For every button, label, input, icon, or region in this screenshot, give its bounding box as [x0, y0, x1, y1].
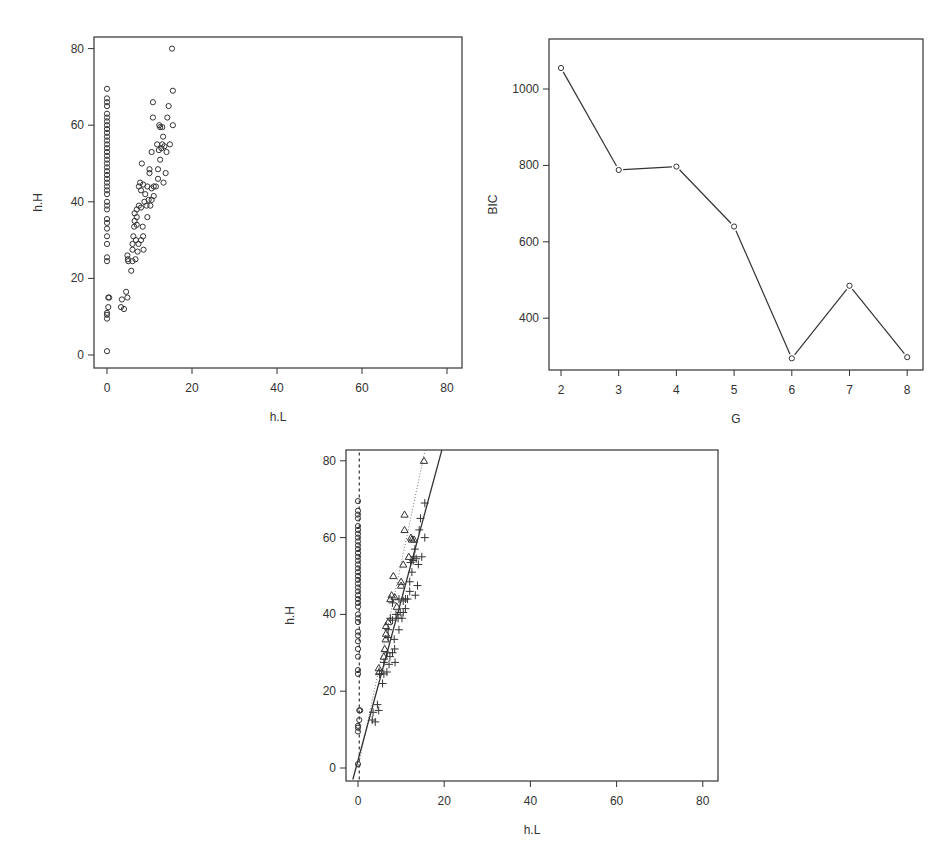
circle-marker: [165, 115, 170, 120]
x-axis-label: h.L: [524, 823, 541, 837]
x-axis: 020406080h.L: [104, 368, 454, 424]
triangle-marker: [420, 457, 427, 463]
cross-marker: [414, 560, 422, 568]
x-tick-label: 8: [904, 383, 911, 397]
cross-marker: [421, 534, 429, 542]
x-tick-label: 20: [438, 794, 452, 808]
circle-marker: [170, 88, 175, 93]
line-segment: [563, 72, 616, 166]
cross-marker: [411, 545, 419, 553]
circle-marker: [355, 629, 360, 634]
scatter-plot-raw: 020406080h.L020406080h.H: [31, 37, 462, 424]
circle-marker: [145, 215, 150, 220]
x-tick-label: 20: [185, 381, 199, 395]
series-circle: [355, 499, 362, 767]
cross-marker: [415, 526, 423, 534]
line-segment: [623, 167, 672, 170]
x-tick-label: 3: [615, 383, 622, 397]
figure-canvas: 020406080h.L020406080h.H 2345678G4006008…: [0, 0, 949, 864]
series-triangle: [375, 457, 427, 674]
cross-marker: [384, 626, 392, 634]
circle-marker: [558, 65, 563, 70]
y-tick-label: 40: [323, 607, 337, 621]
circle-marker: [166, 103, 171, 108]
data-points: [104, 46, 175, 354]
cross-marker: [406, 587, 414, 595]
y-tick-label: 60: [323, 531, 337, 545]
circle-marker: [125, 295, 130, 300]
x-axis: 2345678G: [558, 370, 911, 426]
cross-marker: [391, 645, 399, 653]
x-tick-label: 80: [440, 381, 454, 395]
line-segment: [680, 170, 731, 223]
circle-marker: [104, 234, 109, 239]
circle-marker: [355, 646, 360, 651]
circle-marker: [104, 111, 109, 116]
triangle-marker: [390, 572, 397, 578]
circle-marker: [130, 247, 135, 252]
circle-marker: [104, 241, 109, 246]
x-axis-label: G: [731, 412, 740, 426]
x-tick-label: 60: [355, 381, 369, 395]
triangle-marker: [401, 511, 408, 517]
y-axis: 020406080h.H: [283, 454, 346, 775]
circle-marker: [124, 289, 129, 294]
x-tick-label: 40: [270, 381, 284, 395]
cross-marker: [375, 706, 383, 714]
circle-marker: [149, 149, 154, 154]
bic-line-plot: 2345678G4006008001000BIC: [486, 39, 923, 426]
circle-marker: [141, 247, 146, 252]
y-axis-label: h.H: [31, 193, 45, 212]
circle-marker: [164, 149, 169, 154]
circle-marker: [155, 176, 160, 181]
y-tick-label: 600: [519, 235, 539, 249]
circle-marker: [104, 255, 109, 260]
line-segment: [852, 289, 904, 353]
circle-marker: [135, 249, 140, 254]
circle-marker: [106, 305, 111, 310]
cross-marker: [385, 660, 393, 668]
y-tick-label: 80: [71, 42, 85, 56]
circle-marker: [150, 100, 155, 105]
cross-marker: [401, 605, 409, 613]
y-axis-label: BIC: [486, 194, 500, 214]
y-tick-label: 400: [519, 311, 539, 325]
circle-marker: [104, 86, 109, 91]
circle-marker: [163, 170, 168, 175]
circle-marker: [104, 96, 109, 101]
y-axis-label: h.H: [283, 606, 297, 625]
x-tick-label: 2: [558, 383, 565, 397]
x-axis-label: h.L: [270, 410, 287, 424]
cross-marker: [386, 614, 394, 622]
circle-marker: [150, 115, 155, 120]
cross-marker: [418, 553, 426, 561]
circle-marker: [674, 164, 679, 169]
line-segment: [795, 289, 847, 355]
circle-marker: [139, 161, 144, 166]
y-tick-label: 20: [71, 271, 85, 285]
x-tick-label: 4: [673, 383, 680, 397]
circle-marker: [170, 123, 175, 128]
circle-marker: [140, 224, 145, 229]
circle-marker: [169, 46, 174, 51]
circle-marker: [161, 134, 166, 139]
y-tick-label: 40: [71, 195, 85, 209]
circle-marker: [119, 297, 124, 302]
cross-marker: [411, 591, 419, 599]
y-tick-label: 1000: [512, 82, 539, 96]
circle-marker: [732, 224, 737, 229]
circle-marker: [148, 203, 153, 208]
circle-marker: [158, 157, 163, 162]
y-axis: 020406080h.H: [31, 42, 94, 362]
cross-marker: [373, 701, 381, 709]
x-tick-label: 0: [104, 381, 111, 395]
y-tick-label: 0: [329, 761, 336, 775]
x-tick-label: 0: [355, 794, 362, 808]
cross-marker: [391, 658, 399, 666]
x-axis: 020406080h.L: [355, 781, 710, 837]
circle-marker: [355, 612, 360, 617]
circle-marker: [847, 283, 852, 288]
circle-marker: [147, 167, 152, 172]
y-tick-label: 60: [71, 118, 85, 132]
x-tick-label: 7: [846, 383, 853, 397]
